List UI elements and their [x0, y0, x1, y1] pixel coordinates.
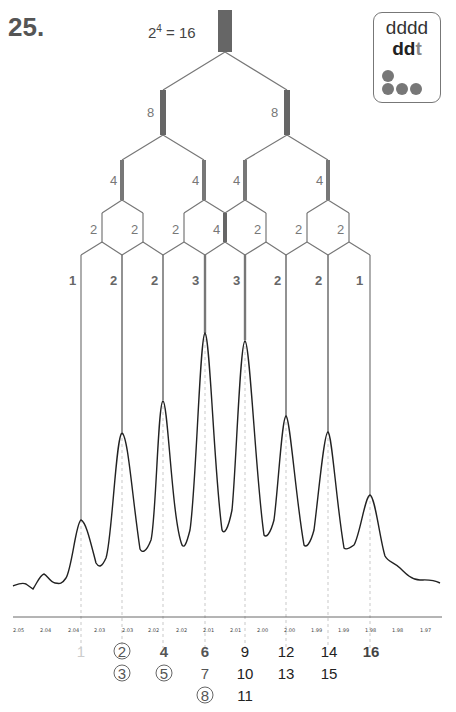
svg-text:3: 3: [118, 665, 126, 682]
leaf-label: 2: [151, 273, 158, 288]
leaf-label: 2: [110, 273, 117, 288]
svg-text:6: 6: [201, 643, 209, 660]
splitting-tree-and-spectrum: 24 = 16 8 8 4 4 4 4 2 2 2 4 2 2 2 1 2: [0, 0, 456, 712]
level2-label: 4: [316, 173, 323, 188]
svg-text:12: 12: [278, 643, 295, 660]
svg-text:1: 1: [77, 643, 85, 660]
svg-text:8: 8: [201, 687, 209, 704]
svg-text:13: 13: [278, 665, 295, 682]
level1-label: 8: [271, 105, 278, 120]
svg-text:1.99: 1.99: [338, 627, 349, 633]
level1-label: 8: [147, 105, 154, 120]
svg-text:2.03: 2.03: [94, 627, 105, 633]
level2-label: 4: [110, 173, 117, 188]
svg-text:16: 16: [363, 643, 380, 660]
svg-text:2.01: 2.01: [230, 627, 241, 633]
svg-text:11: 11: [237, 687, 253, 704]
level2-label: 4: [233, 173, 240, 188]
level3-label: 2: [337, 222, 344, 237]
leaf-label: 2: [315, 273, 322, 288]
level3-label: 2: [172, 222, 179, 237]
assignment-grid: 1 2 4 6 9 12 14 16 3 5 7 10 13 15 8 11: [77, 643, 380, 704]
peak-drop-lines: [81, 333, 370, 648]
svg-text:2.04: 2.04: [40, 627, 51, 633]
svg-text:10: 10: [237, 665, 254, 682]
svg-text:2.05: 2.05: [13, 627, 24, 633]
level2-label: 4: [192, 173, 199, 188]
level3-label: 2: [295, 222, 302, 237]
svg-text:4: 4: [160, 643, 169, 660]
level3-label: 2: [131, 222, 138, 237]
svg-text:5: 5: [160, 665, 168, 682]
svg-text:2.04: 2.04: [68, 627, 79, 633]
svg-text:2.02: 2.02: [176, 627, 187, 633]
svg-text:7: 7: [201, 665, 209, 682]
level3-label: 2: [90, 222, 97, 237]
leaf-label: 3: [233, 273, 240, 288]
root-label: 24 = 16: [148, 23, 196, 41]
svg-text:9: 9: [241, 643, 249, 660]
svg-text:2.03: 2.03: [122, 627, 133, 633]
x-axis-ticks: 2.05 2.04 2.04 2.03 2.03 2.02 2.02 2.01 …: [13, 627, 431, 633]
svg-text:15: 15: [321, 665, 338, 682]
svg-text:2.01: 2.01: [203, 627, 214, 633]
root-bar: [218, 10, 232, 52]
level3-label: 4: [213, 222, 220, 237]
leaf-label: 2: [274, 273, 281, 288]
leaf-label: 1: [356, 273, 363, 288]
svg-text:2: 2: [118, 643, 126, 660]
svg-text:1.99: 1.99: [311, 627, 322, 633]
leaf-label: 1: [69, 273, 76, 288]
svg-text:2.00: 2.00: [284, 627, 295, 633]
svg-text:1.97: 1.97: [420, 627, 431, 633]
svg-text:14: 14: [321, 643, 338, 660]
svg-text:2.02: 2.02: [148, 627, 159, 633]
leaf-label: 3: [192, 273, 199, 288]
svg-text:1.98: 1.98: [392, 627, 403, 633]
spectrum-trace: [13, 333, 440, 589]
level3-label: 2: [254, 222, 261, 237]
svg-text:2.00: 2.00: [257, 627, 268, 633]
svg-text:1.98: 1.98: [365, 627, 376, 633]
tree-lines: [81, 52, 370, 520]
